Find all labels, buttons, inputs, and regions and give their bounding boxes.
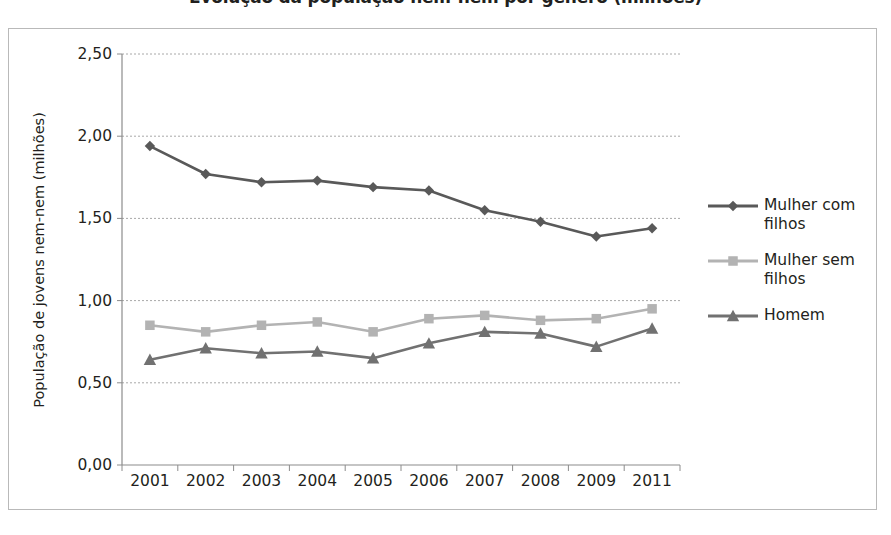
chart-series-layer xyxy=(144,141,659,365)
diamond-marker xyxy=(591,231,601,241)
series-line xyxy=(150,329,652,360)
legend-marker-triangle xyxy=(706,308,762,324)
square-marker xyxy=(313,317,323,327)
diamond-marker xyxy=(728,201,738,211)
diamond-marker xyxy=(145,141,155,151)
diamond-marker xyxy=(201,169,211,179)
chart-legend: Mulher comfilhosMulher semfilhosHomem xyxy=(706,196,871,347)
legend-label-line2: filhos xyxy=(764,270,871,289)
diamond-marker xyxy=(480,205,490,215)
legend-entry[interactable]: Homem xyxy=(706,306,871,330)
legend-label: Mulher com xyxy=(764,196,871,215)
legend-label: Homem xyxy=(764,306,871,325)
square-marker xyxy=(424,314,434,324)
diamond-marker xyxy=(535,216,545,226)
square-marker xyxy=(536,316,546,326)
square-marker xyxy=(592,314,602,324)
square-marker xyxy=(647,304,657,314)
diamond-marker xyxy=(256,177,266,187)
chart-container: Evolução da população nem-nem por género… xyxy=(0,0,891,535)
legend-label-line2: filhos xyxy=(764,215,871,234)
legend-entry[interactable]: Mulher semfilhos xyxy=(706,251,871,289)
legend-label: Mulher sem xyxy=(764,251,871,270)
triangle-marker xyxy=(646,322,658,333)
diamond-marker xyxy=(647,223,657,233)
square-marker xyxy=(728,256,738,266)
square-marker xyxy=(480,311,490,321)
chart-axis-lines xyxy=(117,54,680,471)
square-marker xyxy=(201,327,211,337)
legend-entry[interactable]: Mulher comfilhos xyxy=(706,196,871,234)
square-marker xyxy=(145,321,155,331)
square-marker xyxy=(257,321,267,331)
series-line xyxy=(150,309,652,332)
diamond-marker xyxy=(312,175,322,185)
diamond-marker xyxy=(368,182,378,192)
legend-marker-diamond xyxy=(706,198,762,214)
series-line xyxy=(150,146,652,236)
diamond-marker xyxy=(424,185,434,195)
square-marker xyxy=(368,327,378,337)
chart-series xyxy=(145,141,658,242)
chart-series xyxy=(145,304,657,337)
legend-marker-square xyxy=(706,253,762,269)
